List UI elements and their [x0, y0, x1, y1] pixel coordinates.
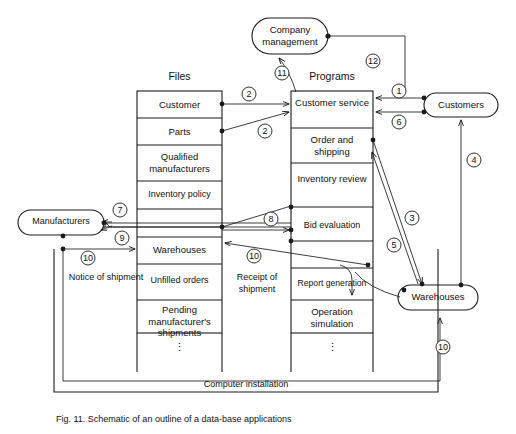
- arrow-number-3: 3: [405, 211, 419, 225]
- figure-caption: Fig. 11. Schematic of an outline of a da…: [56, 414, 291, 424]
- programs-box: [291, 91, 373, 333]
- files-header: Files: [137, 70, 222, 82]
- label-notice-of-shipment: Notice of shipment: [58, 272, 154, 284]
- arrow-number-1: 1: [392, 84, 406, 98]
- label-receipt-of-shipment: Receipt of shipment: [228, 272, 286, 295]
- program-row-customer-service[interactable]: Customer service: [293, 97, 371, 109]
- boxes-group: [18, 18, 498, 392]
- program-row-report-generation[interactable]: Report generation: [289, 278, 375, 290]
- arrow-number-6: 6: [392, 115, 406, 129]
- label-computer-installation: Computer installation: [196, 379, 296, 391]
- entity-manufacturers[interactable]: Manufacturers: [18, 216, 104, 228]
- arrow-number-10b: 10: [247, 249, 261, 263]
- junction-dots: [61, 33, 464, 292]
- arrow-number-4: 4: [467, 153, 481, 167]
- programs-header: Programs: [291, 70, 373, 82]
- arrow-number-12: 12: [366, 54, 380, 68]
- arrow-number-9: 9: [115, 231, 129, 245]
- arrow-number-10a: 10: [81, 251, 95, 265]
- arrow-number-2a: 2: [242, 87, 256, 101]
- program-row-order-and-shipping[interactable]: Order and shipping: [293, 134, 371, 157]
- program-rows-ellipsis: ⋮: [291, 341, 373, 354]
- computer-installation-box: [54, 249, 438, 392]
- entity-customers[interactable]: Customers: [424, 99, 498, 111]
- arrow-number-7: 7: [113, 203, 127, 217]
- entity-company-management[interactable]: Company management: [254, 24, 326, 47]
- file-row-parts[interactable]: Parts: [137, 126, 222, 138]
- entity-warehouses[interactable]: Warehouses: [398, 291, 478, 303]
- figure-canvas: Files Programs Customer Parts Qualified …: [0, 0, 516, 434]
- file-row-inventory-policy[interactable]: Inventory policy: [136, 189, 223, 201]
- arrow-number-8: 8: [264, 212, 278, 226]
- program-row-bid-evaluation[interactable]: Bid evaluation: [291, 220, 373, 232]
- arrow-number-2b: 2: [258, 124, 272, 138]
- arrow-number-11: 11: [275, 66, 289, 80]
- file-row-qualified-manufacturers[interactable]: Qualified manufacturers: [139, 151, 220, 174]
- arrow-number-5: 5: [387, 238, 401, 252]
- file-row-customer[interactable]: Customer: [137, 99, 222, 111]
- file-row-warehouses[interactable]: Warehouses: [137, 244, 222, 256]
- arrow-number-10c: 10: [436, 340, 450, 354]
- file-row-pending-shipments[interactable]: Pending manufacturer's shipments: [139, 304, 220, 339]
- file-rows-ellipsis: ⋮: [137, 341, 222, 354]
- program-row-inventory-review[interactable]: Inventory review: [293, 173, 371, 185]
- program-row-operation-simulation[interactable]: Operation simulation: [293, 306, 371, 329]
